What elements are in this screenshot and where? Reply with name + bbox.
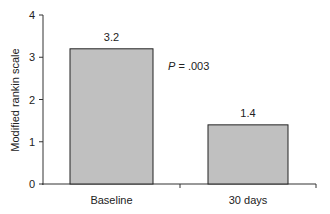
bar-value-label: 3.2 xyxy=(104,31,119,43)
y-tick-label: 3 xyxy=(29,51,35,63)
x-category-label: 30 days xyxy=(229,194,268,206)
p-value-annotation: P = .003 xyxy=(168,60,209,72)
y-ticks: 0 1 2 3 4 xyxy=(29,9,43,190)
y-tick-label: 4 xyxy=(29,9,35,21)
y-axis-label: Modified rankin scale xyxy=(9,48,21,151)
bar-chart: 0 1 2 3 4 Modified rankin scale 3.2 1.4 … xyxy=(0,0,330,214)
x-category-label: Baseline xyxy=(90,194,132,206)
y-tick-label: 2 xyxy=(29,94,35,106)
bar-30-days xyxy=(208,125,288,184)
bar-value-label: 1.4 xyxy=(240,107,255,119)
bar-baseline xyxy=(70,49,153,184)
y-tick-label: 1 xyxy=(29,136,35,148)
y-tick-label: 0 xyxy=(29,178,35,190)
